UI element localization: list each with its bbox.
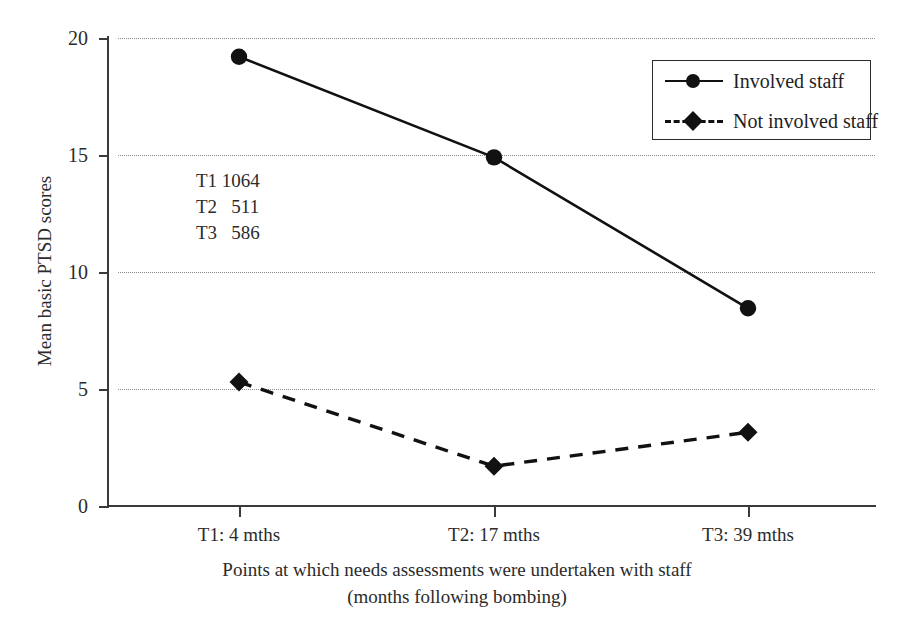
y-tick-label-0: 0 bbox=[28, 496, 88, 516]
legend-entry-involved-staff: Involved staff bbox=[653, 61, 872, 101]
x-axis-title-line-1: Points at which needs assessments were u… bbox=[0, 556, 914, 583]
annotation-value-t3: 586 bbox=[231, 222, 260, 243]
y-tick-mark-0 bbox=[99, 506, 108, 508]
y-tick-label-20: 20 bbox=[28, 28, 88, 48]
legend-label-involved-staff: Involved staff bbox=[733, 70, 844, 93]
annotation-row-t2: T2 511 bbox=[196, 194, 260, 220]
gridline-10 bbox=[118, 272, 875, 273]
annotation-row-t3: T3 586 bbox=[196, 220, 260, 246]
y-tick-mark-10 bbox=[99, 272, 108, 274]
x-tick-label-t2: T2: 17 mths bbox=[394, 524, 594, 546]
annotation-label-t3: T3 bbox=[196, 222, 217, 243]
gridline-15 bbox=[118, 155, 875, 156]
y-tick-mark-5 bbox=[99, 389, 108, 391]
circle-marker-icon bbox=[740, 300, 756, 316]
x-tick-label-t3: T3: 39 mths bbox=[648, 524, 848, 546]
annotation-value-t1: 1064 bbox=[222, 170, 260, 191]
legend-key-diamond-dashed bbox=[663, 109, 725, 133]
legend-key-circle-solid bbox=[663, 69, 725, 93]
legend-label-not-involved-staff: Not involved staff bbox=[733, 110, 878, 133]
x-tick-label-t1: T1: 4 mths bbox=[139, 524, 339, 546]
circle-marker-icon bbox=[231, 49, 247, 65]
x-tick-mark-t3 bbox=[748, 506, 750, 517]
y-tick-mark-15 bbox=[99, 155, 108, 157]
diamond-marker-icon bbox=[485, 457, 504, 476]
annotation-label-t2: T2 bbox=[196, 196, 217, 217]
y-axis-title: Mean basic PTSD scores bbox=[34, 121, 56, 421]
circle-marker-icon bbox=[486, 149, 502, 165]
sample-size-annotation: T1 1064 T2 511 T3 586 bbox=[196, 168, 260, 246]
x-axis-line bbox=[107, 505, 876, 507]
gridline-20 bbox=[118, 38, 875, 39]
x-tick-mark-t1 bbox=[239, 506, 241, 517]
annotation-value-t2: 511 bbox=[231, 196, 259, 217]
diamond-marker-icon bbox=[739, 423, 758, 442]
legend-entry-not-involved-staff: Not involved staff bbox=[653, 101, 872, 141]
annotation-row-t1: T1 1064 bbox=[196, 168, 260, 194]
gridline-5 bbox=[118, 389, 875, 390]
diamond-marker-icon bbox=[683, 111, 703, 131]
series-line-1 bbox=[239, 382, 748, 466]
x-axis-title: Points at which needs assessments were u… bbox=[0, 556, 914, 610]
x-axis-title-line-2: (months following bombing) bbox=[0, 583, 914, 610]
ptsd-line-chart: 20 15 10 5 0 Mean basic PTSD scores T1: … bbox=[0, 0, 914, 621]
circle-marker-icon bbox=[686, 74, 700, 88]
annotation-label-t1: T1 bbox=[196, 170, 217, 191]
x-tick-mark-t2 bbox=[494, 506, 496, 517]
y-tick-mark-20 bbox=[99, 38, 108, 40]
legend-box: Involved staff Not involved staff bbox=[652, 60, 871, 140]
